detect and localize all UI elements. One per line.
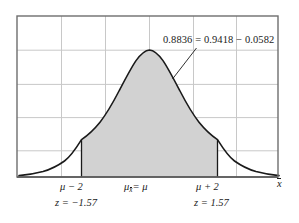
x-bar-symbol: x — [277, 179, 282, 190]
x-bar-overline — [130, 187, 132, 188]
x-tick-label-left-mu: μ − 2 — [60, 182, 83, 193]
center-mu-subscript: x — [129, 187, 132, 194]
x-tick-label-left-z: z = −1.57 — [55, 198, 97, 209]
axis-x-bar-overline — [277, 178, 280, 179]
center-mu-equals: = μ — [132, 181, 147, 192]
x-tick-label-center-mu: μx= μ — [124, 182, 147, 194]
normal-distribution-figure: 0.8836 = 0.9418 − 0.0582 μ − 2 z = −1.57… — [0, 0, 299, 223]
x-axis-label: x — [277, 179, 282, 190]
x-tick-label-right-mu: μ + 2 — [196, 182, 219, 193]
axis-x-letter: x — [277, 178, 282, 189]
x-tick-label-right-z: z = 1.57 — [194, 198, 229, 209]
probability-annotation: 0.8836 = 0.9418 − 0.0582 — [163, 35, 274, 46]
